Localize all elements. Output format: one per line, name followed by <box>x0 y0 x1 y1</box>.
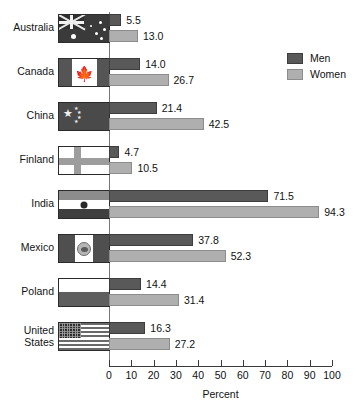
bar-women <box>109 74 169 86</box>
category-label: United States <box>0 325 54 348</box>
bar-women <box>109 30 138 42</box>
legend-swatch-men <box>287 53 303 64</box>
bar-men <box>109 190 268 202</box>
bar-value-women: 10.5 <box>137 162 157 174</box>
x-axis-tick-label: 20 <box>148 369 160 381</box>
x-axis-tick-label: 90 <box>304 369 316 381</box>
bar-value-women: 94.3 <box>324 206 344 218</box>
bar-chart: Australia5.513.0Canada🍁14.026.7China★★★★… <box>0 0 358 412</box>
ashoka-chakra-icon <box>81 201 88 208</box>
bar-women <box>109 338 170 350</box>
x-axis-tick-label: 40 <box>192 369 204 381</box>
bar-men <box>109 278 141 290</box>
x-axis-tick <box>287 360 288 366</box>
stars-canton <box>59 323 81 338</box>
flag-icon-united-states <box>58 322 110 351</box>
bar-value-men: 21.4 <box>162 102 182 114</box>
category-label: Mexico <box>0 242 54 254</box>
x-axis-tick <box>176 360 177 366</box>
bar-value-men: 37.8 <box>198 234 218 246</box>
flag-icon-china: ★★★★★ <box>58 102 110 131</box>
x-axis-tick <box>310 360 311 366</box>
bar-value-women: 26.7 <box>174 74 194 86</box>
bar-value-women: 27.2 <box>175 338 195 350</box>
chart-row: Poland14.431.4 <box>0 276 358 320</box>
maple-leaf-icon: 🍁 <box>75 65 94 80</box>
flag-icon-mexico <box>58 234 110 263</box>
bar-men <box>109 234 193 246</box>
chart-row: India71.594.3 <box>0 188 358 232</box>
legend-item[interactable]: Women <box>287 66 346 82</box>
chart-row: United States16.327.2 <box>0 320 358 364</box>
bar-value-men: 16.3 <box>150 322 170 334</box>
bar-women <box>109 294 179 306</box>
bar-value-men: 14.0 <box>145 58 165 70</box>
bar-men <box>109 58 140 70</box>
legend-item[interactable]: Men <box>287 50 346 66</box>
x-axis-tick <box>243 360 244 366</box>
x-axis-tick-label: 70 <box>259 369 271 381</box>
bar-value-women: 42.5 <box>209 118 229 130</box>
x-axis-tick-label: 50 <box>215 369 227 381</box>
flag-icon-poland <box>58 278 110 307</box>
bar-value-men: 14.4 <box>146 278 166 290</box>
x-axis-tick-label: 80 <box>282 369 294 381</box>
category-label: Australia <box>0 22 54 34</box>
x-axis-tick <box>198 360 199 366</box>
category-label: India <box>0 198 54 210</box>
bar-value-men: 5.5 <box>126 14 141 26</box>
chart-row: China★★★★★21.442.5 <box>0 100 358 144</box>
x-axis-title: Percent <box>109 388 332 400</box>
x-axis-tick-label: 100 <box>323 369 341 381</box>
bar-men <box>109 322 145 334</box>
x-axis-line <box>109 366 332 367</box>
x-axis-tick <box>154 360 155 366</box>
chart-row: Finland4.710.5 <box>0 144 358 188</box>
x-axis-tick <box>332 360 333 366</box>
x-axis-tick <box>265 360 266 366</box>
category-label: China <box>0 110 54 122</box>
bar-women <box>109 250 226 262</box>
legend-swatch-women <box>287 69 303 80</box>
legend-label: Men <box>310 52 330 64</box>
flag-icon-india <box>58 190 110 219</box>
x-axis-tick <box>131 360 132 366</box>
x-axis-tick-label: 30 <box>170 369 182 381</box>
flag-icon-australia <box>58 14 110 43</box>
x-axis-tick <box>109 360 110 366</box>
bar-value-men: 71.5 <box>273 190 293 202</box>
legend-label: Women <box>310 68 346 80</box>
bar-men <box>109 102 157 114</box>
x-axis-tick-label: 60 <box>237 369 249 381</box>
chart-legend: MenWomen <box>287 50 346 82</box>
flag-icon-canada: 🍁 <box>58 58 110 87</box>
bar-men <box>109 14 121 26</box>
flag-icon-finland <box>58 146 110 175</box>
union-jack-canton <box>59 15 84 29</box>
bar-men <box>109 146 119 158</box>
category-label: Canada <box>0 66 54 78</box>
bar-value-women: 31.4 <box>184 294 204 306</box>
bar-value-women: 52.3 <box>231 250 251 262</box>
category-label: Poland <box>0 286 54 298</box>
x-axis-tick <box>221 360 222 366</box>
category-label: Finland <box>0 154 54 166</box>
bar-value-men: 4.7 <box>124 146 139 158</box>
bar-women <box>109 162 132 174</box>
x-axis-tick-label: 0 <box>106 369 112 381</box>
bar-value-women: 13.0 <box>143 30 163 42</box>
bar-women <box>109 206 319 218</box>
mexico-emblem-icon <box>77 242 91 256</box>
x-axis-tick-label: 10 <box>125 369 137 381</box>
chart-row: Mexico37.852.3 <box>0 232 358 276</box>
bar-women <box>109 118 204 130</box>
